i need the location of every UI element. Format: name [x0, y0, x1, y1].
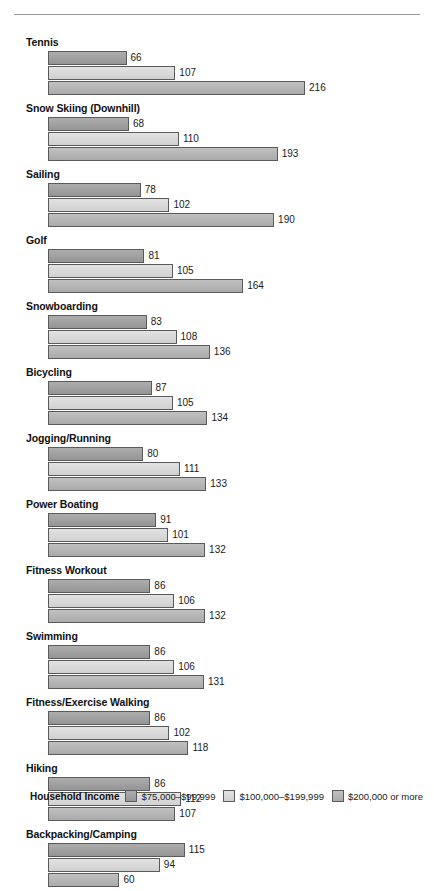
bar-group: Fitness Workout86106132	[0, 564, 434, 623]
bar-group: Fitness/Exercise Walking86102118	[0, 696, 434, 755]
bar	[48, 51, 127, 65]
bar-value-label: 60	[123, 873, 134, 887]
bar	[48, 513, 156, 527]
bar-row: 115	[48, 843, 434, 857]
bar-value-label: 66	[131, 51, 142, 65]
bar-stack: 80111133	[48, 447, 434, 491]
bar-row: 68	[48, 117, 434, 131]
category-label: Snowboarding	[26, 300, 434, 312]
bar-group: Jogging/Running80111133	[0, 432, 434, 491]
bar-value-label: 105	[177, 396, 194, 410]
chart-legend: Household Income $75,000–$99,999$100,000…	[0, 790, 434, 802]
bar-value-label: 107	[179, 66, 196, 80]
bar-value-label: 106	[178, 660, 195, 674]
bar	[48, 741, 188, 755]
legend-item: $100,000–$199,999	[223, 790, 324, 802]
bar-row: 164	[48, 279, 434, 293]
bar-row: 87	[48, 381, 434, 395]
bar-row: 136	[48, 345, 434, 359]
bar-value-label: 118	[192, 741, 208, 755]
bar	[48, 594, 174, 608]
bar	[48, 645, 150, 659]
bar-stack: 87105134	[48, 381, 434, 425]
bar	[48, 81, 305, 95]
bar	[48, 579, 150, 593]
category-label: Bicycling	[26, 366, 434, 378]
bar	[48, 543, 205, 557]
bar	[48, 447, 143, 461]
bar	[48, 726, 169, 740]
bar-group: Power Boating91101132	[0, 498, 434, 557]
bar	[48, 381, 152, 395]
bar-row: 66	[48, 51, 434, 65]
legend-swatch	[223, 790, 235, 802]
bar-row: 94	[48, 858, 434, 872]
bar-value-label: 80	[147, 447, 158, 461]
bar-row: 193	[48, 147, 434, 161]
bar-row: 132	[48, 543, 434, 557]
bar-row: 102	[48, 198, 434, 212]
bar-stack: 81105164	[48, 249, 434, 293]
legend-label: $75,000–$99,999	[141, 791, 215, 802]
bar-value-label: 94	[164, 858, 175, 872]
category-label: Power Boating	[26, 498, 434, 510]
legend-item: $200,000 or more	[332, 790, 423, 802]
bar-group: Golf81105164	[0, 234, 434, 293]
bar-value-label: 105	[177, 264, 194, 278]
legend-item: $75,000–$99,999	[125, 790, 215, 802]
bar-value-label: 108	[181, 330, 198, 344]
bar	[48, 807, 175, 821]
bar-row: 60	[48, 873, 434, 887]
bar-group: Bicycling87105134	[0, 366, 434, 425]
bar-stack: 86106132	[48, 579, 434, 623]
bar	[48, 777, 150, 791]
bar	[48, 711, 150, 725]
bar-value-label: 81	[148, 249, 159, 263]
bar-value-label: 101	[172, 528, 189, 542]
bar-group: Snow Skiing (Downhill)68110193	[0, 102, 434, 161]
bar-value-label: 193	[282, 147, 299, 161]
category-label: Hiking	[26, 762, 434, 774]
bar-row: 118	[48, 741, 434, 755]
bar-row: 107	[48, 807, 434, 821]
bar-row: 105	[48, 396, 434, 410]
bar-value-label: 91	[160, 513, 171, 527]
bar-row: 131	[48, 675, 434, 689]
bar-stack: 1159460	[48, 843, 434, 887]
category-label: Fitness Workout	[26, 564, 434, 576]
category-label: Sailing	[26, 168, 434, 180]
bar-row: 102	[48, 726, 434, 740]
bar	[48, 213, 274, 227]
bar-row: 110	[48, 132, 434, 146]
bar	[48, 264, 173, 278]
legend-label: $200,000 or more	[348, 791, 423, 802]
bar-stack: 66107216	[48, 51, 434, 95]
bar	[48, 477, 206, 491]
bar-value-label: 78	[145, 183, 156, 197]
legend-swatch	[332, 790, 344, 802]
bar	[48, 411, 207, 425]
bar-value-label: 136	[214, 345, 231, 359]
bar	[48, 117, 129, 131]
legend-items: $75,000–$99,999$100,000–$199,999$200,000…	[125, 790, 431, 802]
bar-value-label: 111	[184, 462, 199, 476]
bar	[48, 462, 180, 476]
legend-label: $100,000–$199,999	[239, 791, 324, 802]
bar	[48, 873, 119, 887]
bar	[48, 660, 174, 674]
category-label: Jogging/Running	[26, 432, 434, 444]
bar-value-label: 216	[309, 81, 326, 95]
bar-row: 83	[48, 315, 434, 329]
bar-stack: 91101132	[48, 513, 434, 557]
bar-value-label: 86	[154, 711, 165, 725]
bar-stack: 86106131	[48, 645, 434, 689]
bar	[48, 66, 175, 80]
bar-value-label: 87	[156, 381, 167, 395]
bar-value-label: 110	[183, 132, 199, 146]
bar	[48, 528, 168, 542]
bar-value-label: 68	[133, 117, 144, 131]
bar	[48, 609, 205, 623]
bar	[48, 675, 204, 689]
bar	[48, 330, 177, 344]
bar-stack: 83108136	[48, 315, 434, 359]
